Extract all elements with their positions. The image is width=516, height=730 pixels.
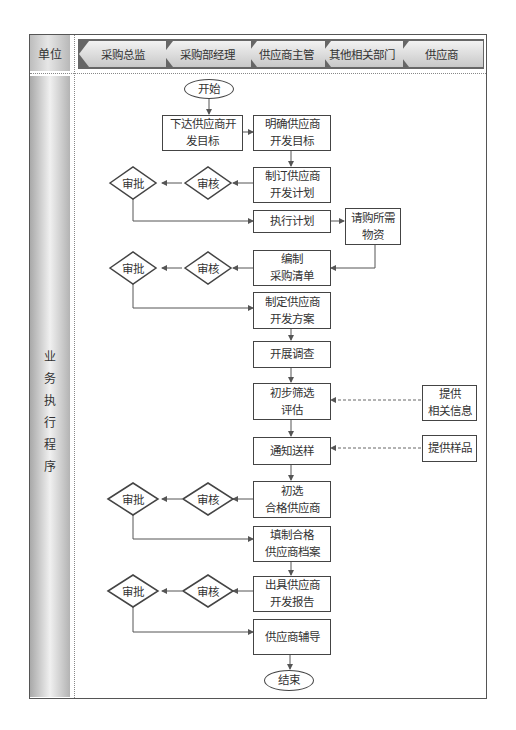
clarify-dev-target-box: 明确供应商开发目标 <box>253 115 331 151</box>
execute-plan-box: 执行计划 <box>253 210 331 233</box>
approve-diamond-2: 审批 <box>113 260 153 276</box>
review-diamond-1: 审核 <box>188 175 228 191</box>
make-dev-plan-box: 制订供应商开发计划 <box>253 167 331 203</box>
provide-sample-box: 提供样品 <box>422 435 477 462</box>
notify-sample-box: 通知送样 <box>253 437 331 465</box>
compile-purchase-list-box: 编制采购清单 <box>253 250 331 286</box>
approve-diamond-1: 审批 <box>113 175 153 191</box>
define-dev-scheme-box: 制定供应商开发方案 <box>253 292 331 329</box>
start-node: 开始 <box>184 79 234 99</box>
conduct-survey-box: 开展调查 <box>253 341 331 368</box>
fill-supplier-archive-box: 填制合格供应商档案 <box>253 526 331 562</box>
issue-dev-report-box: 出具供应商开发报告 <box>253 576 331 612</box>
approve-diamond-3: 审批 <box>113 491 153 507</box>
review-diamond-3: 审核 <box>188 491 228 507</box>
requisition-materials-box: 请购所需物资 <box>345 208 401 245</box>
issue-dev-target-box: 下达供应商开发目标 <box>162 115 243 151</box>
end-node: 结束 <box>264 670 314 691</box>
preselect-qualified-box: 初选合格供应商 <box>253 481 331 518</box>
approve-diamond-4: 审批 <box>113 583 153 599</box>
supplier-coaching-box: 供应商辅导 <box>253 619 331 655</box>
review-diamond-4: 审核 <box>188 583 228 599</box>
review-diamond-2: 审核 <box>188 260 228 276</box>
provide-info-box: 提供相关信息 <box>422 385 477 421</box>
initial-screening-box: 初步筛选评估 <box>253 383 331 420</box>
